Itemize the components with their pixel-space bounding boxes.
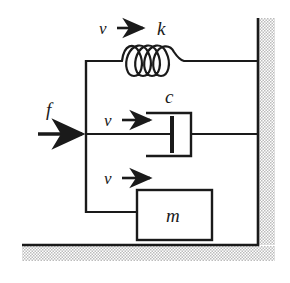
wall-hatching	[259, 18, 275, 245]
damper-branch: v c	[86, 86, 258, 156]
damping-coefficient-label: c	[165, 86, 174, 107]
spring-velocity-annotation: v	[99, 19, 143, 38]
spring-branch: v k	[86, 18, 258, 76]
velocity-mass-label: v	[104, 169, 112, 188]
spring-coil	[122, 46, 184, 76]
diagram-canvas: f v k v c	[0, 0, 290, 283]
fixed-wall	[258, 18, 275, 246]
spring-stiffness-label: k	[157, 18, 166, 39]
damper-velocity-annotation: v	[104, 111, 150, 130]
mass-velocity-annotation: v	[104, 169, 150, 188]
velocity-damper-label: v	[104, 111, 112, 130]
input-force-arrow: f	[38, 99, 82, 134]
force-label: f	[46, 99, 54, 120]
mass-label: m	[166, 205, 180, 226]
velocity-spring-label: v	[99, 19, 107, 38]
mechanical-system-diagram: f v k v c	[0, 0, 290, 283]
mass-branch: m v	[86, 169, 212, 240]
fixed-ground	[22, 245, 275, 261]
ground-hatching	[22, 246, 275, 261]
